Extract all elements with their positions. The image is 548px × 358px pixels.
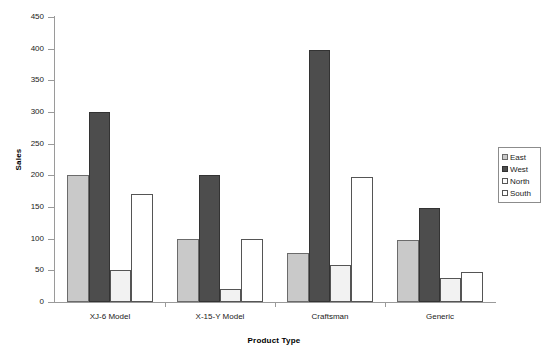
y-tick-label: 100 bbox=[31, 235, 44, 243]
bar-north-3 bbox=[440, 278, 461, 302]
x-tick-label-1: X-15-Y Model bbox=[165, 312, 275, 321]
y-tick-mark bbox=[48, 144, 54, 145]
legend-label: West bbox=[510, 165, 528, 174]
legend-swatch-icon bbox=[502, 178, 508, 184]
y-tick-mark bbox=[48, 270, 54, 271]
bar-north-0 bbox=[110, 270, 131, 302]
bar-north-2 bbox=[330, 265, 351, 302]
x-tick-label-0: XJ-6 Model bbox=[55, 312, 165, 321]
legend-item-east[interactable]: East bbox=[502, 151, 538, 163]
legend-label: East bbox=[510, 153, 526, 162]
legend-label: North bbox=[510, 177, 530, 186]
y-tick-label: 450 bbox=[31, 13, 44, 21]
x-axis-title: Product Type bbox=[0, 336, 548, 345]
bar-south-1 bbox=[241, 239, 262, 302]
y-tick-label: 350 bbox=[31, 76, 44, 84]
y-tick-mark bbox=[48, 302, 54, 303]
y-tick-mark bbox=[48, 239, 54, 240]
x-tick-mark bbox=[165, 302, 166, 307]
legend-swatch-icon bbox=[502, 190, 508, 196]
bar-west-2 bbox=[309, 50, 330, 302]
plot-area bbox=[55, 17, 495, 302]
bar-west-1 bbox=[199, 175, 220, 302]
y-tick-label: 150 bbox=[31, 203, 44, 211]
legend-item-north[interactable]: North bbox=[502, 175, 538, 187]
y-tick-label: 300 bbox=[31, 108, 44, 116]
y-tick-label: 400 bbox=[31, 45, 44, 53]
y-tick-label: 200 bbox=[31, 171, 44, 179]
bar-chart: Sales 050100150200250300350400450 XJ-6 M… bbox=[0, 0, 548, 358]
legend-swatch-icon bbox=[502, 166, 508, 172]
bar-south-2 bbox=[351, 177, 372, 302]
bar-south-3 bbox=[461, 272, 482, 302]
y-tick-label: 0 bbox=[40, 298, 44, 306]
legend-swatch-icon bbox=[502, 154, 508, 160]
legend-item-west[interactable]: West bbox=[502, 163, 538, 175]
y-tick-mark bbox=[48, 49, 54, 50]
chart-legend: EastWestNorthSouth bbox=[498, 147, 541, 203]
y-tick-label: 250 bbox=[31, 140, 44, 148]
y-tick-mark bbox=[48, 80, 54, 81]
y-tick-mark bbox=[48, 112, 54, 113]
bar-north-1 bbox=[220, 289, 241, 302]
bar-west-3 bbox=[419, 208, 440, 302]
y-tick-mark bbox=[48, 17, 54, 18]
legend-label: South bbox=[510, 189, 531, 198]
bar-south-0 bbox=[131, 194, 152, 302]
x-tick-label-2: Craftsman bbox=[275, 312, 385, 321]
x-tick-mark bbox=[385, 302, 386, 307]
x-tick-mark bbox=[275, 302, 276, 307]
bar-east-3 bbox=[397, 240, 418, 302]
y-axis-title: Sales bbox=[14, 130, 23, 190]
y-tick-label: 50 bbox=[35, 266, 44, 274]
x-tick-label-3: Generic bbox=[385, 312, 495, 321]
legend-item-south[interactable]: South bbox=[502, 187, 538, 199]
bar-east-1 bbox=[177, 239, 198, 302]
bar-east-2 bbox=[287, 253, 308, 302]
bar-west-0 bbox=[89, 112, 110, 302]
y-tick-mark bbox=[48, 175, 54, 176]
bar-east-0 bbox=[67, 175, 88, 302]
y-tick-mark bbox=[48, 207, 54, 208]
